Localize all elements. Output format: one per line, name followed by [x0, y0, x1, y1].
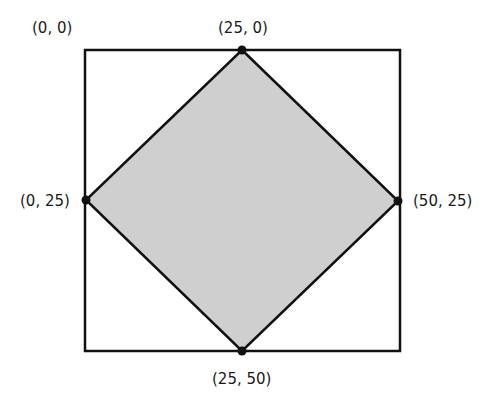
vertex-dot-right: [394, 197, 403, 206]
vertex-dot-left: [82, 196, 91, 205]
vertex-label-top: (25, 0): [218, 19, 268, 37]
vertex-label-left: (0, 25): [20, 192, 70, 210]
vertex-dot-bottom: [238, 347, 247, 356]
vertex-label-bottom: (25, 50): [212, 370, 271, 388]
diagram-canvas: (0, 0) (25, 0) (0, 25) (50, 25) (25, 50): [0, 0, 493, 413]
vertex-dot-top: [238, 46, 247, 55]
corner-label-origin: (0, 0): [32, 19, 72, 37]
vertex-label-right: (50, 25): [413, 192, 472, 210]
